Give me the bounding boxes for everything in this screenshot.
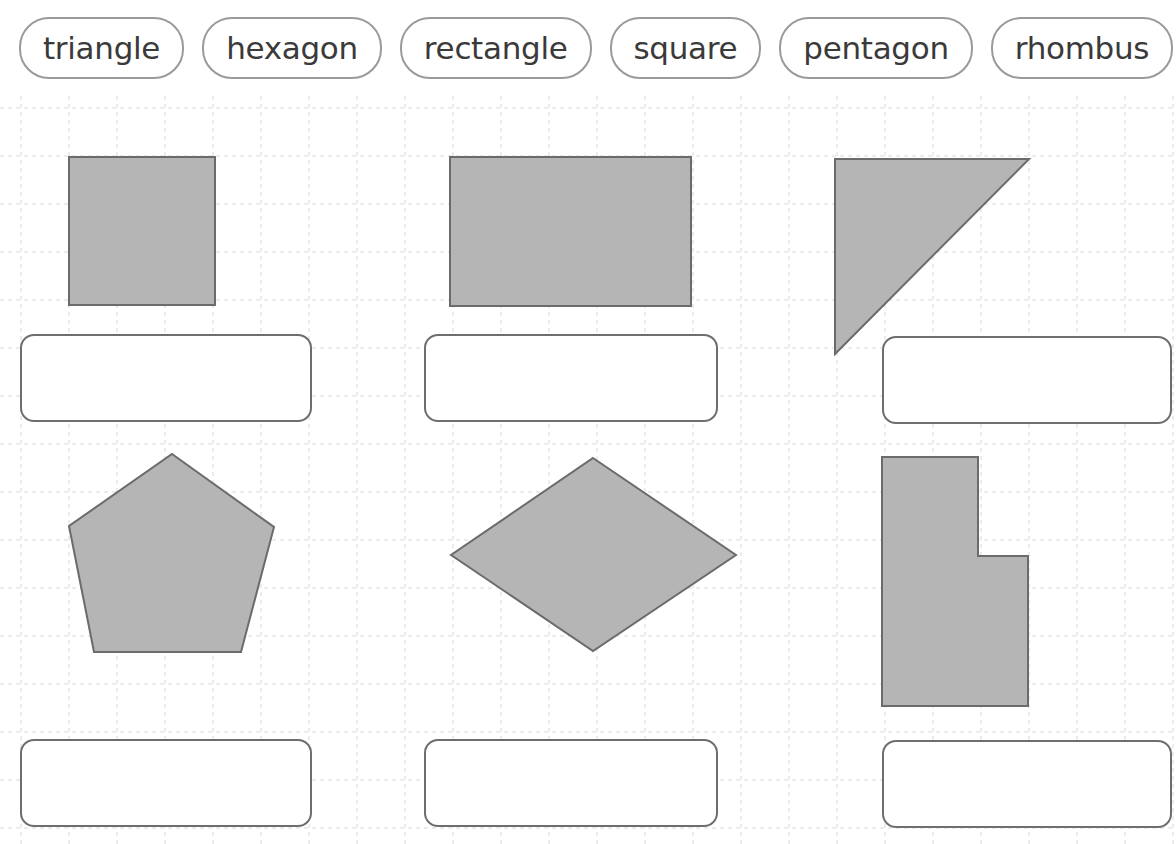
word-bank-label: hexagon [226,33,358,64]
word-bank-label: pentagon [803,33,948,64]
shape-naming-worksheet: trianglehexagonrectanglesquarepentagonrh… [0,0,1176,844]
answer-box-pentagon[interactable] [20,739,312,827]
answer-box-rectangle[interactable] [424,334,718,422]
word-bank-label: rectangle [424,33,568,64]
word-bank-label: triangle [43,33,160,64]
word-bank-pill-pentagon[interactable]: pentagon [779,17,972,79]
answer-box-square[interactable] [20,334,312,422]
word-bank-pill-square[interactable]: square [610,17,762,79]
word-bank-pill-hexagon[interactable]: hexagon [202,17,382,79]
word-bank: trianglehexagonrectanglesquarepentagonrh… [0,0,1176,96]
answer-box-hexagon[interactable] [882,740,1172,828]
word-bank-pill-triangle[interactable]: triangle [19,17,184,79]
word-bank-pill-rectangle[interactable]: rectangle [400,17,592,79]
word-bank-pill-rhombus[interactable]: rhombus [991,17,1173,79]
grid-lines [0,96,1176,844]
grid-paper-background [0,96,1176,844]
word-bank-label: square [634,33,738,64]
word-bank-label: rhombus [1015,33,1149,64]
answer-box-rhombus[interactable] [424,739,718,827]
answer-box-triangle[interactable] [882,336,1172,424]
